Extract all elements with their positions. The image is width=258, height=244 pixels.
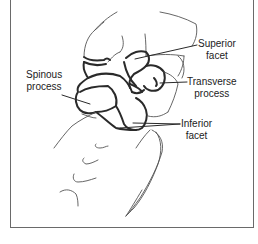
label-transverse-process: Transverse process [187, 76, 237, 100]
label-inferior-facet: Inferior facet [181, 118, 212, 142]
leader-inferior-facet-1 [133, 123, 180, 124]
lower-body-outline [54, 112, 163, 216]
vertebra-illustration [0, 0, 258, 244]
label-transverse-process-line2: process [187, 88, 237, 100]
label-inferior-facet-line2: facet [181, 130, 212, 142]
label-superior-facet-line2: facet [198, 50, 236, 62]
label-spinous-process: Spinous process [26, 69, 62, 93]
leader-inferior-facet-2 [120, 124, 180, 128]
label-inferior-facet-line1: Inferior [181, 118, 212, 130]
label-superior-facet: Superior facet [198, 38, 236, 62]
label-superior-facet-line1: Superior [198, 38, 236, 50]
label-spinous-process-line2: process [26, 81, 62, 93]
label-spinous-process-line1: Spinous [26, 69, 62, 81]
vertebra-bold-outline [76, 51, 165, 130]
label-transverse-process-line1: Transverse [187, 76, 237, 88]
upper-vertebra-outline [84, 12, 197, 78]
